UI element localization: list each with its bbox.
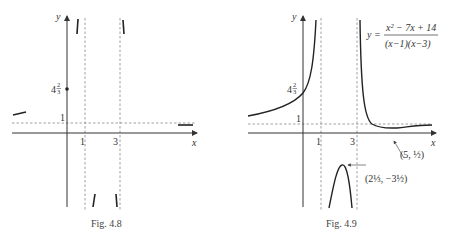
svg-text:4: 4 [51, 84, 56, 95]
figure-caption: Fig. 4.8 [91, 218, 122, 229]
tick-label-y1: 1 [60, 112, 65, 123]
tick-label-x1: 1 [316, 136, 321, 147]
intercept-label: 4 2 3 [287, 81, 297, 95]
svg-text:y =: y = [366, 29, 381, 40]
maximum-point-label: (2⅓, −3½) [365, 173, 407, 185]
y-axis-label: y [291, 11, 297, 22]
curve-segment-lower-right [116, 194, 117, 207]
y-intercept-point [65, 87, 69, 91]
figure-4-8: y x 1 3 1 4 2 3 Fig. 4.8 [12, 11, 197, 229]
curve-segment-left-tail [13, 112, 26, 115]
figure-canvas: y x 1 3 1 4 2 3 Fig. 4.8 y x 1 3 1 [0, 0, 450, 240]
curve-segment-upper-left [77, 19, 78, 34]
svg-text:4: 4 [287, 84, 292, 95]
intercept-label: 4 2 3 [51, 81, 61, 95]
curve-middle-branch [329, 165, 352, 208]
curve-segment-upper-right [123, 20, 124, 34]
tick-label-x3: 3 [350, 136, 355, 147]
curve-left-branch [248, 20, 316, 116]
svg-text:(x−1)(x−3): (x−1)(x−3) [385, 38, 431, 50]
svg-text:3: 3 [293, 88, 296, 95]
figure-caption: Fig. 4.9 [326, 218, 357, 229]
svg-text:2: 2 [57, 81, 60, 88]
minimum-point-label: (5, ½) [400, 149, 424, 161]
x-axis-label: x [430, 137, 436, 148]
svg-text:x² − 7x + 14: x² − 7x + 14 [385, 22, 436, 33]
y-axis-label: y [55, 11, 61, 22]
svg-text:2: 2 [293, 81, 296, 88]
tick-label-x1: 1 [80, 136, 85, 147]
figure-4-9: y x 1 3 1 4 2 3 y = x² − 7x + 14 (x−1)(x… [248, 11, 438, 229]
equation-label: y = x² − 7x + 14 (x−1)(x−3) [366, 22, 438, 50]
x-axis-label: x [191, 137, 197, 148]
tick-label-x3: 3 [113, 136, 118, 147]
svg-text:3: 3 [57, 88, 60, 95]
curve-segment-lower-left [93, 194, 95, 207]
tick-label-y1: 1 [296, 113, 301, 124]
